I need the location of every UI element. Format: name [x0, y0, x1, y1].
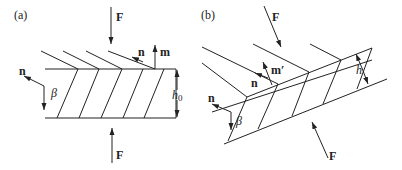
panel-b: (b) F F n m′	[201, 6, 387, 163]
panel-b-label: (b)	[201, 8, 215, 22]
beta-label: β	[235, 114, 242, 128]
force-label-bottom: F	[116, 148, 123, 162]
normal-label-left: n	[19, 64, 26, 78]
panel-a: (a) F F n m	[14, 7, 183, 163]
panel-a-label: (a)	[14, 8, 27, 22]
force-label-top: F	[272, 10, 279, 24]
force-label-top: F	[116, 10, 123, 24]
m-vector-label: m′	[271, 63, 284, 77]
beta-label: β	[50, 86, 57, 100]
layer-block-b	[202, 44, 387, 144]
normal-arrow-left-icon	[24, 76, 44, 86]
normal-label-right: n	[138, 45, 145, 59]
layer-block-a	[41, 51, 176, 118]
height-label: h	[356, 63, 362, 77]
force-arrow-bottom-icon	[312, 122, 328, 158]
diagram-canvas: (a) F F n m	[0, 0, 402, 170]
height-label: h0	[172, 88, 183, 103]
normal-label-right: n	[251, 76, 258, 90]
height-arrow-down-icon	[362, 68, 368, 84]
m-vector-label: m	[160, 45, 170, 59]
normal-label-left: n	[208, 91, 215, 105]
force-label-bottom: F	[329, 149, 336, 163]
